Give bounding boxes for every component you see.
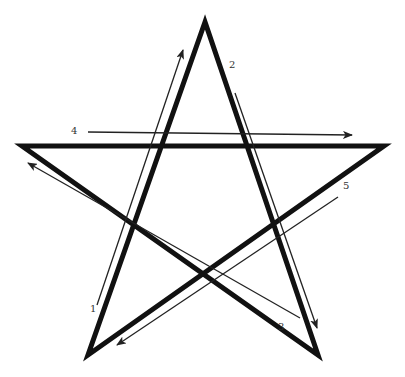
stroke-label-3: 3 (278, 322, 284, 332)
stroke-arrow-4 (88, 132, 352, 135)
stroke-arrow-2 (235, 93, 317, 328)
stroke-label-5: 5 (343, 181, 349, 191)
stroke-label-2: 2 (229, 60, 235, 70)
pentagram-star (22, 22, 384, 355)
pentagram-diagram: 1 2 3 4 5 (0, 0, 405, 377)
stroke-arrow-1 (97, 50, 183, 305)
stroke-label-1: 1 (90, 304, 96, 314)
stroke-label-4: 4 (71, 126, 77, 136)
stroke-arrows (28, 50, 352, 345)
